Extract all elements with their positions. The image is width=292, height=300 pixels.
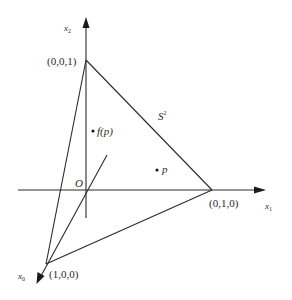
edge-100-010: [46, 190, 212, 264]
x2-axis: [83, 17, 90, 218]
x1-axis: [18, 187, 266, 194]
vertex-001-label: (0,0,1): [47, 55, 77, 68]
point-fp-marker: [91, 129, 94, 132]
edge-001-100: [46, 60, 86, 264]
x2-arrowhead-icon: [83, 17, 90, 28]
point-fp-label: f(p): [97, 125, 113, 138]
x1-axis-label: x1: [264, 201, 272, 212]
origin-label: O: [75, 177, 83, 189]
x0-axis-label: x0: [17, 271, 25, 282]
x0-axis: [37, 155, 108, 284]
simplex-triangle: [46, 60, 212, 264]
vertex-100-label: (1,0,0): [49, 268, 79, 281]
vertex-010-label: (0,1,0): [209, 197, 239, 210]
simplex-label: S2: [158, 110, 167, 122]
simplex-diagram: x2 x1 x0 (0,0,1) (0,1,0) (1,0,0) O S2 f(…: [0, 0, 292, 300]
x0-arrowhead-icon: [37, 272, 45, 284]
x1-arrowhead-icon: [254, 187, 266, 194]
x2-axis-label: x2: [63, 23, 71, 34]
point-p-label: p: [161, 163, 168, 175]
point-p-marker: [155, 168, 158, 171]
